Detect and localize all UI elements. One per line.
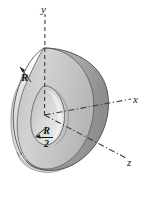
- figure-container: y x z R R 2: [0, 0, 145, 197]
- disk-body: [11, 48, 109, 172]
- inner-radius-numerator: R: [40, 126, 53, 137]
- annular-disk-illustration: [0, 0, 145, 197]
- z-axis-label: z: [127, 157, 131, 168]
- inner-radius-denominator: 2: [40, 139, 53, 150]
- y-axis-label: y: [41, 4, 46, 15]
- outer-radius-label: R: [21, 72, 28, 83]
- inner-radius-fraction-label: R 2: [40, 126, 53, 149]
- x-axis-label: x: [133, 94, 138, 105]
- y-axis-line: [45, 14, 46, 115]
